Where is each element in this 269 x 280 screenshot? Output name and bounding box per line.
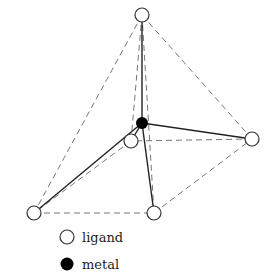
- ligand-top-icon: [135, 8, 149, 22]
- legend-metal-label: metal: [82, 257, 119, 272]
- ligand-bottom-right-icon: [147, 206, 161, 220]
- ligand-right-icon: [245, 132, 259, 146]
- edge-top-right: [142, 15, 252, 139]
- solid-bonds: [34, 15, 252, 213]
- metal-center-icon: [136, 117, 148, 129]
- legend-metal-icon: [61, 258, 74, 271]
- ligands: [27, 8, 259, 220]
- ligand-bottom-left-icon: [27, 206, 41, 220]
- legend: ligand metal: [60, 230, 123, 272]
- ligand-back-icon: [124, 134, 138, 148]
- coordination-diagram: ligand metal: [0, 0, 269, 280]
- dashed-edges: [34, 15, 252, 213]
- legend-ligand-label: ligand: [82, 230, 123, 245]
- edge-bottom-right-right: [154, 139, 252, 213]
- bond-bottom-right: [142, 123, 154, 213]
- edge-top-bottom-left: [34, 15, 142, 213]
- edge-back-bottom-left: [34, 141, 131, 213]
- legend-ligand-icon: [60, 230, 74, 244]
- bond-right: [142, 123, 252, 139]
- edge-top-bottom-right: [142, 15, 154, 213]
